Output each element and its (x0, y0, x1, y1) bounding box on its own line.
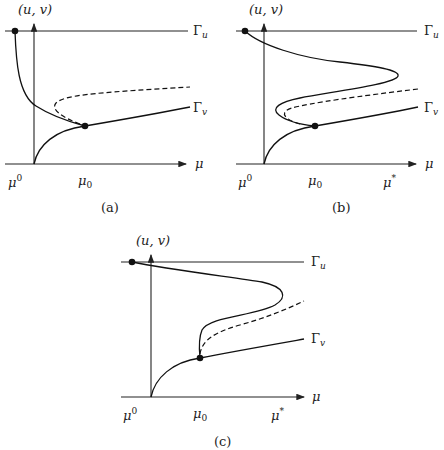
axis-label-uv: (u, v) (249, 2, 283, 17)
point-marker (129, 259, 136, 266)
panel-b: (u, v) Γu Γv μ μ0 μ0 μ* (b) (236, 2, 439, 215)
unstable-branch (284, 89, 418, 124)
caption-c: (c) (214, 434, 231, 449)
stable-branch (245, 31, 398, 126)
panel-a: (u, v) Γu Γv μ μ0 μ0 (a) (5, 2, 208, 215)
gamma-v-curve (264, 107, 418, 164)
tick-mu-sub0: μ0 (193, 406, 207, 423)
caption-a: (a) (101, 200, 119, 215)
point-marker (242, 28, 249, 35)
point-marker (82, 123, 89, 130)
tick-mu-sup0: μ0 (8, 173, 22, 190)
axis-label-mu: μ (195, 156, 203, 171)
axis-label-mu: μ (425, 156, 433, 171)
label-gamma-u: Γu (193, 23, 208, 40)
tick-mu-star: μ* (271, 406, 284, 423)
tick-mu-star: μ* (383, 173, 396, 190)
gamma-v-curve (151, 339, 304, 397)
panel-c: (u, v) Γu Γv μ μ0 μ0 μ* (c) (121, 233, 326, 449)
label-gamma-u: Γu (311, 254, 326, 271)
unstable-branch (200, 301, 304, 354)
label-gamma-u: Γu (424, 23, 439, 40)
bifurcation-figure: (u, v) Γu Γv μ μ0 μ0 (a) (u, v) Γu Γv μ … (0, 0, 444, 450)
gamma-v-curve (34, 107, 190, 164)
tick-mu-sup0: μ0 (238, 173, 252, 190)
label-gamma-v: Γv (424, 100, 438, 117)
tick-mu-sup0: μ0 (123, 406, 137, 423)
stable-branch (15, 31, 85, 126)
label-gamma-v: Γv (193, 100, 207, 117)
point-marker (12, 28, 19, 35)
unstable-branch (55, 87, 190, 124)
tick-mu-sub0: μ0 (308, 173, 322, 190)
tick-mu-sub0: μ0 (78, 173, 92, 190)
axis-label-uv: (u, v) (136, 233, 170, 248)
label-gamma-v: Γv (311, 331, 325, 348)
caption-b: (b) (332, 200, 350, 215)
axis-label-uv: (u, v) (18, 2, 52, 17)
axis-label-mu: μ (312, 389, 320, 404)
point-marker (197, 355, 204, 362)
point-marker (312, 123, 319, 130)
stable-branch (132, 262, 283, 358)
